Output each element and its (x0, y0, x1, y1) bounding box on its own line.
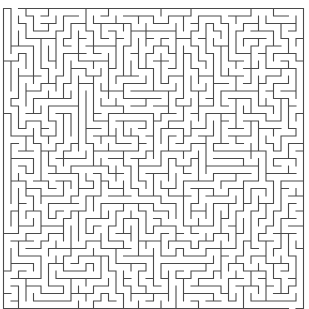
maze-walls (4, 9, 304, 309)
maze-board (0, 0, 309, 309)
maze-wall-lines (4, 9, 304, 309)
maze-grid (0, 0, 309, 309)
